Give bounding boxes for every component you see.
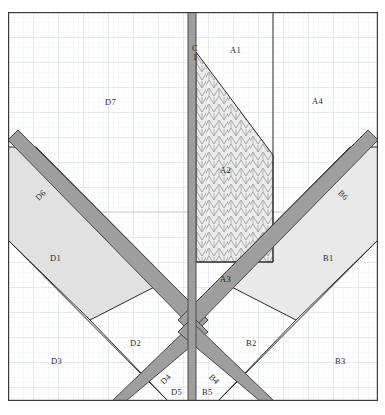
drawing-frame: C 1 A1 A2 A3 A4 D7 D6 D1 D2 D3 D4 D5 B6 … (8, 12, 378, 401)
label-C1: C 1 (192, 44, 198, 61)
diagram-stage: C 1 A1 A2 A3 A4 D7 D6 D1 D2 D3 D4 D5 B6 … (0, 0, 385, 415)
label-D5: D5 (171, 387, 182, 397)
label-A4: A4 (312, 96, 323, 106)
label-B1: B1 (323, 253, 334, 263)
label-A3: A3 (220, 274, 231, 284)
label-B2: B2 (246, 338, 257, 348)
construction-drawing (8, 12, 378, 401)
label-D7: D7 (105, 97, 116, 107)
label-A1: A1 (230, 45, 241, 55)
label-D1: D1 (50, 253, 61, 263)
paper-background: C 1 A1 A2 A3 A4 D7 D6 D1 D2 D3 D4 D5 B6 … (0, 0, 385, 415)
label-B3: B3 (335, 356, 346, 366)
label-D3: D3 (51, 356, 62, 366)
label-A2: A2 (220, 165, 231, 175)
label-D2: D2 (130, 338, 141, 348)
label-B5: B5 (202, 387, 213, 397)
